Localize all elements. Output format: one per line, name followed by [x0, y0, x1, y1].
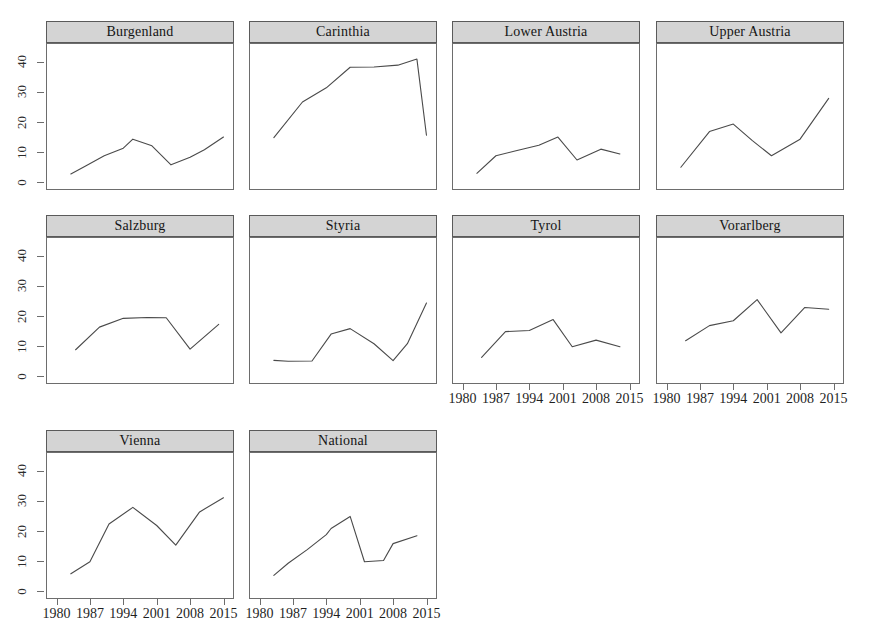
x-tick-mark: [260, 599, 261, 605]
panel-national: National: [249, 430, 437, 599]
panel-vorarlberg: Vorarlberg: [656, 215, 844, 384]
x-tick-mark: [157, 599, 158, 605]
y-tick-mark: [37, 122, 44, 123]
y-axis-row-3: 010203040: [0, 452, 46, 599]
plot-area-vorarlberg: [656, 237, 844, 384]
x-tick-label: 1980: [449, 392, 477, 406]
x-axis-3: 198019871994200120082015: [47, 599, 233, 627]
series-line-upper-austria: [681, 98, 829, 167]
y-tick-mark: [37, 376, 44, 377]
y-axis-row-2: 010203040: [0, 237, 46, 384]
y-tick-mark: [37, 286, 44, 287]
x-tick-mark: [596, 384, 597, 390]
x-axis-2: 198019871994200120082015: [657, 384, 843, 412]
x-tick-mark: [427, 599, 428, 605]
plot-area-salzburg: [46, 237, 234, 384]
x-tick-label: 2001: [346, 607, 374, 621]
x-tick-mark: [90, 599, 91, 605]
x-tick-label: 1980: [43, 607, 71, 621]
strip-header-styria: Styria: [249, 215, 437, 237]
x-tick-mark: [123, 599, 124, 605]
x-tick-label: 1994: [719, 392, 747, 406]
trellis-chart: Burgenland010203040CarinthiaLower Austri…: [0, 0, 869, 644]
x-tick-mark: [393, 599, 394, 605]
plot-area-styria: [249, 237, 437, 384]
y-tick-mark: [37, 316, 44, 317]
y-tick-mark: [37, 182, 44, 183]
x-tick-label: 2008: [379, 607, 407, 621]
x-tick-mark: [57, 599, 58, 605]
series-line-national: [274, 516, 417, 575]
x-tick-mark: [224, 599, 225, 605]
strip-label-national: National: [318, 434, 368, 448]
panel-tyrol: Tyrol: [452, 215, 640, 384]
strip-header-upper-austria: Upper Austria: [656, 21, 844, 43]
x-tick-label: 1987: [279, 607, 307, 621]
strip-label-vorarlberg: Vorarlberg: [719, 219, 780, 233]
y-tick-mark: [37, 62, 44, 63]
x-tick-mark: [529, 384, 530, 390]
x-tick-label: 1994: [515, 392, 543, 406]
series-line-vienna: [71, 498, 224, 574]
series-line-lower-austria: [477, 137, 620, 173]
plot-area-burgenland: [46, 43, 234, 190]
x-tick-mark: [563, 384, 564, 390]
strip-header-tyrol: Tyrol: [452, 215, 640, 237]
x-tick-label: 1994: [312, 607, 340, 621]
plot-area-tyrol: [452, 237, 640, 384]
x-tick-label: 2008: [786, 392, 814, 406]
x-tick-mark: [190, 599, 191, 605]
series-line-tyrol: [482, 320, 620, 358]
y-tick-mark: [37, 152, 44, 153]
x-tick-label: 2015: [413, 607, 441, 621]
x-tick-label: 2001: [549, 392, 577, 406]
strip-header-vienna: Vienna: [46, 430, 234, 452]
y-axis-row-1: 010203040: [0, 43, 46, 190]
y-tick-label: 30: [15, 79, 28, 105]
strip-label-carinthia: Carinthia: [316, 25, 370, 39]
x-tick-label: 2001: [753, 392, 781, 406]
x-tick-mark: [700, 384, 701, 390]
y-tick-mark: [37, 501, 44, 502]
x-tick-mark: [834, 384, 835, 390]
x-tick-mark: [326, 599, 327, 605]
panel-lower-austria: Lower Austria: [452, 21, 640, 190]
x-tick-mark: [733, 384, 734, 390]
x-tick-mark: [630, 384, 631, 390]
panel-carinthia: Carinthia: [249, 21, 437, 190]
strip-header-burgenland: Burgenland: [46, 21, 234, 43]
x-tick-mark: [767, 384, 768, 390]
strip-header-salzburg: Salzburg: [46, 215, 234, 237]
x-tick-label: 1987: [482, 392, 510, 406]
y-tick-label: 40: [15, 243, 28, 269]
x-tick-label: 2015: [210, 607, 238, 621]
y-tick-label: 10: [15, 548, 28, 574]
plot-area-upper-austria: [656, 43, 844, 190]
y-tick-label: 40: [15, 458, 28, 484]
plot-area-carinthia: [249, 43, 437, 190]
strip-header-vorarlberg: Vorarlberg: [656, 215, 844, 237]
y-tick-label: 30: [15, 488, 28, 514]
x-axis-1: 198019871994200120082015: [453, 384, 639, 412]
strip-label-upper-austria: Upper Austria: [709, 25, 791, 39]
x-tick-label: 2008: [176, 607, 204, 621]
y-tick-mark: [37, 346, 44, 347]
series-line-styria: [274, 303, 427, 361]
panel-vienna: Vienna: [46, 430, 234, 599]
strip-label-lower-austria: Lower Austria: [504, 25, 587, 39]
y-tick-label: 20: [15, 303, 28, 329]
strip-header-lower-austria: Lower Austria: [452, 21, 640, 43]
strip-label-burgenland: Burgenland: [106, 25, 173, 39]
series-line-burgenland: [71, 137, 224, 174]
strip-label-tyrol: Tyrol: [530, 219, 561, 233]
plot-area-vienna: [46, 452, 234, 599]
x-tick-label: 1994: [109, 607, 137, 621]
y-tick-label: 40: [15, 49, 28, 75]
plot-area-national: [249, 452, 437, 599]
y-tick-label: 0: [15, 363, 28, 389]
x-tick-mark: [463, 384, 464, 390]
strip-label-styria: Styria: [326, 219, 361, 233]
y-tick-mark: [37, 591, 44, 592]
plot-area-lower-austria: [452, 43, 640, 190]
x-tick-label: 1987: [686, 392, 714, 406]
